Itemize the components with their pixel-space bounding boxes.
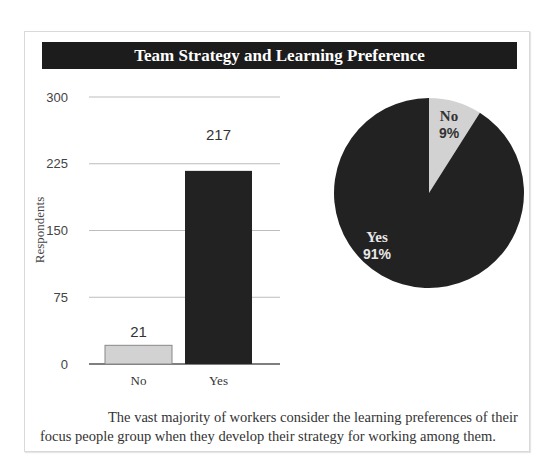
pie-pct-no: 9% — [439, 125, 460, 141]
data-label-yes: 217 — [206, 126, 231, 143]
x-tick-label-no: No — [131, 373, 147, 388]
y-tick-label: 300 — [46, 90, 68, 105]
bar-no — [105, 345, 172, 364]
pie-label-no: No — [440, 108, 458, 124]
chart-caption: The vast majority of workers consider th… — [40, 408, 520, 446]
pie-pct-yes: 91% — [363, 246, 392, 262]
chart-canvas: 075150225300 21No217Yes No9%Yes91% Respo… — [0, 0, 554, 473]
y-tick-label: 0 — [61, 357, 68, 372]
pie-label-yes: Yes — [366, 229, 388, 245]
y-tick-label: 225 — [46, 156, 68, 171]
x-tick-label-yes: Yes — [209, 373, 228, 388]
bar-yes — [185, 171, 252, 364]
y-axis-label: Respondents — [32, 197, 47, 263]
y-tick-label: 75 — [54, 290, 68, 305]
data-label-no: 21 — [130, 323, 147, 340]
y-tick-label: 150 — [46, 223, 68, 238]
